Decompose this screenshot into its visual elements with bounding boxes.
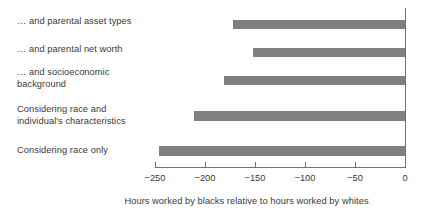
bar-row-4 bbox=[155, 146, 405, 156]
category-label-2: … and socioeconomic background bbox=[17, 67, 157, 90]
x-tick-0 bbox=[155, 162, 156, 168]
x-tick-label-0: −250 bbox=[145, 172, 166, 184]
zero-axis-line bbox=[405, 8, 406, 167]
bar-row-0 bbox=[155, 20, 405, 29]
bar-row-2 bbox=[155, 76, 405, 85]
x-tick-label-4: −50 bbox=[347, 172, 363, 184]
x-axis-line bbox=[155, 167, 406, 168]
bar-row-3 bbox=[155, 111, 405, 121]
bar-chart: … and parental asset types … and parenta… bbox=[0, 0, 431, 220]
x-tick-5 bbox=[405, 162, 406, 168]
x-axis-title-text: Hours worked by blacks relative to hours… bbox=[124, 196, 368, 206]
bar-0 bbox=[233, 20, 405, 29]
x-tick-2 bbox=[255, 162, 256, 168]
bar-3 bbox=[194, 111, 405, 121]
x-tick-label-5: 0 bbox=[402, 172, 407, 184]
x-tick-3 bbox=[305, 162, 306, 168]
x-tick-label-3: −100 bbox=[295, 172, 316, 184]
category-label-group: … and parental asset types … and parenta… bbox=[0, 0, 150, 168]
x-tick-1 bbox=[205, 162, 206, 168]
bar-4 bbox=[159, 146, 405, 156]
bar-row-1 bbox=[155, 48, 405, 57]
plot-area bbox=[155, 8, 405, 168]
x-tick-label-2: −150 bbox=[245, 172, 266, 184]
bar-2 bbox=[224, 76, 405, 85]
bar-1 bbox=[253, 48, 405, 57]
category-label-4: Considering race only bbox=[17, 145, 157, 157]
x-tick-label-1: −200 bbox=[195, 172, 216, 184]
category-label-0: … and parental asset types bbox=[17, 16, 157, 28]
category-label-1: … and parental net worth bbox=[17, 44, 157, 56]
category-label-3: Considering race and individual's charac… bbox=[17, 104, 157, 127]
x-axis-title: Hours worked by blacks relative to hours… bbox=[0, 196, 431, 206]
x-tick-4 bbox=[355, 162, 356, 168]
